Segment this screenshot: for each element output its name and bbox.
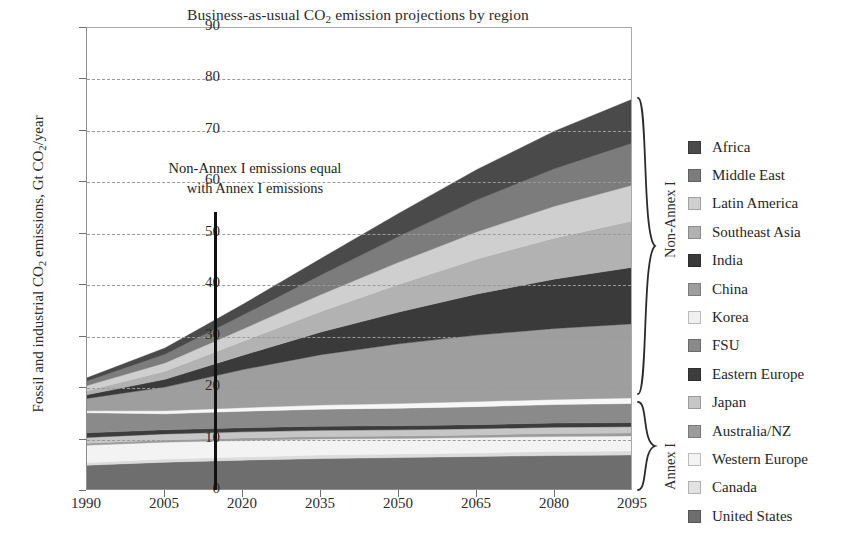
y-tick-mark-0 (79, 490, 86, 491)
legend-label: United States (712, 508, 792, 525)
legend-swatch-icon (688, 141, 701, 154)
legend-label: FSU (712, 337, 740, 354)
y-tick-label-80: 80 (174, 68, 220, 85)
legend-swatch-icon (688, 197, 701, 210)
legend-label: Western Europe (712, 451, 808, 468)
x-tick-label-2065: 2065 (436, 495, 516, 512)
legend-item[interactable]: Middle East (688, 161, 808, 189)
legend-label: Canada (712, 479, 757, 496)
legend-label: Middle East (712, 167, 785, 184)
y-tick-mark-30 (79, 336, 86, 337)
chart-title: Business-as-usual CO2 emission projectio… (78, 6, 638, 25)
legend-swatch-icon (688, 396, 701, 409)
x-tick-label-2020: 2020 (202, 495, 282, 512)
x-tick-mark-2080 (554, 490, 555, 497)
y-axis-label-sub2: 2 (36, 145, 48, 150)
legend-item[interactable]: Japan (688, 389, 808, 417)
x-tick-label-2050: 2050 (358, 495, 438, 512)
y-tick-mark-50 (79, 233, 86, 234)
y-tick-mark-60 (79, 181, 86, 182)
legend-item[interactable]: Australia/NZ (688, 417, 808, 445)
equalization-marker-line (214, 212, 217, 490)
legend-swatch-icon (688, 311, 701, 324)
legend-swatch-icon (688, 339, 701, 352)
x-tick-mark-2065 (476, 490, 477, 497)
y-axis-label-a: Fossil and industrial CO (30, 266, 46, 412)
legend: AfricaMiddle EastLatin AmericaSoutheast … (688, 133, 808, 530)
legend-label: Australia/NZ (712, 423, 791, 440)
legend-item[interactable]: Canada (688, 474, 808, 502)
x-tick-mark-2005 (164, 490, 165, 497)
legend-item[interactable]: Southeast Asia (688, 218, 808, 246)
legend-label: India (712, 252, 743, 269)
group-label-annex-i: Annex I (662, 443, 679, 490)
y-axis-label: Fossil and industrial CO2 emissions, Gt … (30, 29, 48, 499)
legend-item[interactable]: China (688, 275, 808, 303)
legend-swatch-icon (688, 425, 701, 438)
group-brace-annex-i (636, 400, 658, 492)
equalization-annotation: Non-Annex I emissions equal with Annex I… (120, 158, 390, 198)
y-tick-mark-80 (79, 78, 86, 79)
stacked-area-svg (87, 28, 632, 490)
chart-root: Business-as-usual CO2 emission projectio… (0, 0, 860, 534)
legend-swatch-icon (688, 226, 701, 239)
legend-label: Africa (712, 139, 750, 156)
annotation-line-2: with Annex I emissions (120, 178, 390, 198)
legend-label: Eastern Europe (712, 366, 804, 383)
x-tick-mark-2020 (242, 490, 243, 497)
y-tick-label-70: 70 (174, 120, 220, 137)
legend-item[interactable]: Korea (688, 303, 808, 331)
legend-label: China (712, 281, 748, 298)
legend-swatch-icon (688, 169, 701, 182)
x-tick-label-2080: 2080 (514, 495, 594, 512)
chart-title-post: emission projections by region (331, 6, 529, 23)
x-tick-label-2005: 2005 (124, 495, 204, 512)
x-tick-mark-2035 (320, 490, 321, 497)
x-tick-label-2035: 2035 (280, 495, 360, 512)
group-brace-non-annex-i (636, 96, 658, 396)
group-label-non-annex-i: Non-Annex I (662, 181, 679, 258)
plot-area (86, 27, 632, 490)
legend-item[interactable]: Latin America (688, 190, 808, 218)
legend-swatch-icon (688, 481, 701, 494)
legend-item[interactable]: Western Europe (688, 445, 808, 473)
legend-item[interactable]: FSU (688, 332, 808, 360)
y-axis-label-b: emissions, Gt CO (30, 151, 46, 261)
y-tick-mark-70 (79, 130, 86, 131)
legend-label: Korea (712, 309, 749, 326)
y-axis-label-c: /year (30, 115, 46, 145)
x-tick-label-2095: 2095 (592, 495, 672, 512)
y-axis-label-sub1: 2 (36, 261, 48, 266)
legend-item[interactable]: United States (688, 502, 808, 530)
y-tick-mark-90 (79, 27, 86, 28)
y-tick-mark-40 (79, 284, 86, 285)
legend-swatch-icon (688, 254, 701, 267)
legend-swatch-icon (688, 510, 701, 523)
legend-label: Southeast Asia (712, 224, 801, 241)
legend-item[interactable]: India (688, 247, 808, 275)
legend-item[interactable]: Africa (688, 133, 808, 161)
legend-item[interactable]: Eastern Europe (688, 360, 808, 388)
x-tick-label-1990: 1990 (46, 495, 126, 512)
legend-label: Japan (712, 394, 746, 411)
legend-swatch-icon (688, 283, 701, 296)
x-tick-mark-2050 (398, 490, 399, 497)
y-tick-label-90: 90 (174, 17, 220, 34)
y-tick-mark-10 (79, 439, 86, 440)
legend-swatch-icon (688, 453, 701, 466)
annotation-line-1: Non-Annex I emissions equal (120, 158, 390, 178)
y-tick-mark-20 (79, 387, 86, 388)
legend-label: Latin America (712, 195, 798, 212)
legend-swatch-icon (688, 368, 701, 381)
